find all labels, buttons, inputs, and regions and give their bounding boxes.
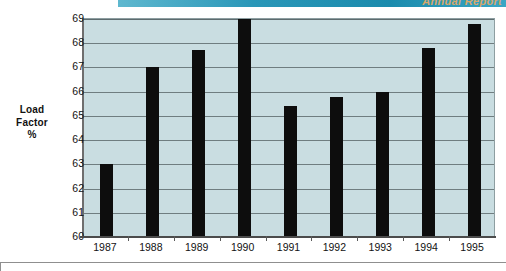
y-axis-title: Load Factor % [4,104,60,142]
page-bottom-rule [0,262,506,263]
y-axis-tick-label: 63 [62,157,84,169]
x-axis-tick-label: 1989 [174,241,220,253]
bar-1992 [330,97,343,237]
bar-1988 [146,67,159,237]
x-axis-tick-label: 1990 [220,241,266,253]
x-axis-tick-label: 1994 [403,241,449,253]
bar-1994 [422,48,435,237]
gridline [84,43,494,44]
y-axis-tick-label: 69 [62,12,84,24]
x-axis-tick-label: 1995 [449,241,495,253]
gridline [84,19,494,20]
y-axis-tick-label: 67 [62,60,84,72]
y-axis-title-line-3: % [4,129,60,142]
x-axis-line [80,236,496,238]
page-left-edge-rule [0,262,1,271]
y-axis-tick-label: 66 [62,85,84,97]
x-axis-tick-label: 1992 [311,241,357,253]
y-axis-title-line-1: Load [4,104,60,117]
load-factor-bar-chart: Load Factor % 69686766656463626160 19871… [0,0,506,262]
y-axis-tick-label: 65 [62,109,84,121]
bar-1990 [238,19,251,237]
y-axis-tick-label: 61 [62,206,84,218]
y-axis-tick-label: 62 [62,182,84,194]
x-axis-tick-label: 1991 [266,241,312,253]
plot-area [82,18,495,236]
bar-1995 [468,24,481,237]
x-axis-tick-label: 1987 [82,241,128,253]
x-axis-tick-label: 1988 [128,241,174,253]
bar-1989 [192,50,205,237]
bar-1991 [284,106,297,237]
y-axis-tick-label: 68 [62,36,84,48]
bar-1987 [100,164,113,237]
y-axis-title-line-2: Factor [4,117,60,130]
y-axis-tick-label: 64 [62,133,84,145]
x-axis-tick-label: 1993 [357,241,403,253]
bar-1993 [376,92,389,237]
